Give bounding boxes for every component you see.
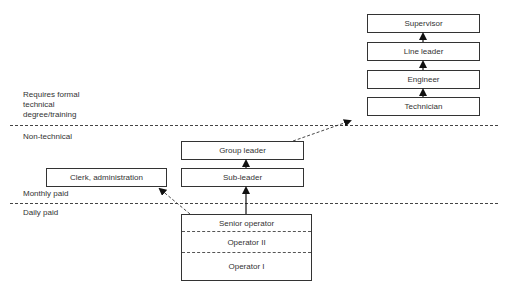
arrows-layer bbox=[0, 0, 507, 294]
arrow-senior-operator-to-clerk bbox=[160, 189, 190, 214]
arrow-group-leader-to-technician bbox=[293, 121, 350, 141]
